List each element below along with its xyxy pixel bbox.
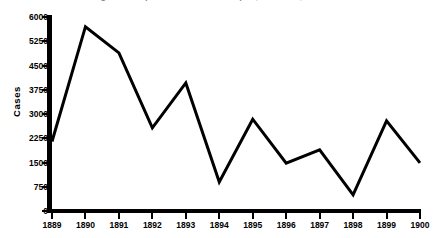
y-axis-tick-label-wrap: 0: [0, 207, 48, 215]
x-axis-tick-mark: [285, 213, 287, 219]
x-axis-tick-mark: [118, 213, 120, 219]
y-axis-tick-label: 6000: [8, 13, 48, 21]
y-axis-title: Cases: [11, 72, 22, 132]
y-axis-tick-label-wrap: 3000: [0, 110, 48, 118]
x-axis-tick-mark: [319, 213, 321, 219]
chart-title: Figure 1. Reported cases of smallpox, Sh…: [0, 0, 441, 3]
x-axis-tick-mark: [218, 213, 220, 219]
x-axis-tick-mark: [252, 213, 254, 219]
x-axis-tick-mark: [84, 213, 86, 219]
y-axis-tick-label-wrap: 6000: [0, 13, 48, 21]
y-axis-tick-label-wrap: 1500: [0, 159, 48, 167]
cases-polyline: [52, 27, 420, 195]
y-axis-tick-label: 1500: [8, 159, 48, 167]
y-axis-tick-label: 5250: [8, 37, 48, 45]
y-axis-tick-label: 3000: [8, 110, 48, 118]
x-axis-tick-mark: [51, 213, 53, 219]
x-axis-tick-mark: [386, 213, 388, 219]
x-axis-tick-mark: [352, 213, 354, 219]
y-axis-tick-label-wrap: 2250: [0, 134, 48, 142]
y-axis-tick-label: 3750: [8, 86, 48, 94]
cases-line-series: [52, 17, 420, 211]
y-axis-tick-label-wrap: 750: [0, 183, 48, 191]
x-axis-tick-mark: [419, 213, 421, 219]
plot-area: [52, 17, 420, 211]
y-axis-tick-label: 750: [8, 183, 48, 191]
x-axis-tick-label: 1900: [400, 220, 440, 230]
y-axis-tick-label-wrap: 3750: [0, 86, 48, 94]
x-axis-tick-mark: [185, 213, 187, 219]
y-axis-tick-label-wrap: 5250: [0, 37, 48, 45]
y-axis-tick-label: 2250: [8, 134, 48, 142]
x-axis-tick-mark: [151, 213, 153, 219]
y-axis-tick-label: 0: [8, 207, 48, 215]
line-chart-figure: Figure 1. Reported cases of smallpox, Sh…: [0, 0, 441, 238]
y-axis-tick-label-wrap: 4500: [0, 62, 48, 70]
y-axis-tick-label: 4500: [8, 62, 48, 70]
